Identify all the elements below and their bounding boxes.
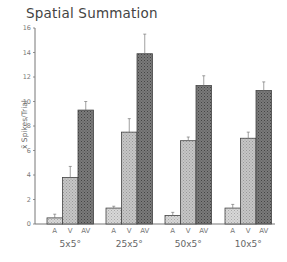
y-tick-label: 0 — [27, 220, 31, 228]
bar-label: AV — [140, 227, 149, 235]
y-tick-label: 4 — [27, 171, 31, 179]
group-label: 10x5° — [235, 239, 262, 249]
group-label: 50x5° — [175, 239, 202, 249]
y-tick-label: 14 — [23, 49, 31, 57]
bar-label: AV — [199, 227, 208, 235]
bar-av — [256, 90, 272, 224]
bar-label: AV — [81, 227, 90, 235]
group-label: 25x5° — [116, 239, 143, 249]
bar-v — [241, 138, 257, 224]
bar-av — [137, 54, 153, 224]
bar-label: A — [111, 227, 116, 235]
bar-a — [225, 208, 241, 224]
bar-av — [78, 110, 94, 224]
bar-label: A — [230, 227, 235, 235]
bar-v — [63, 177, 79, 224]
bar-av — [196, 86, 212, 224]
y-tick-label: 6 — [27, 147, 31, 155]
y-tick-label: 10 — [23, 98, 31, 106]
bar-v — [122, 132, 138, 224]
bar-chart: 0246810121416 AVAV5x5°AVAV25x5°AVAV50x5°… — [0, 0, 287, 262]
bar-a — [106, 208, 122, 224]
bar-label: V — [68, 227, 73, 235]
bars — [47, 34, 272, 224]
y-tick-label: 8 — [27, 122, 31, 130]
y-tick-label: 12 — [23, 73, 31, 81]
bar-a — [165, 215, 181, 224]
y-tick-label: 2 — [27, 196, 31, 204]
group-label: 5x5° — [60, 239, 81, 249]
category-labels: AVAV5x5°AVAV25x5°AVAV50x5°AVAV10x5° — [52, 227, 268, 249]
bar-label: AV — [259, 227, 268, 235]
y-tick-label: 16 — [23, 24, 31, 32]
bar-label: V — [186, 227, 191, 235]
bar-label: A — [170, 227, 175, 235]
bar-v — [181, 141, 197, 224]
bar-a — [47, 218, 63, 224]
bar-label: V — [127, 227, 132, 235]
bar-label: A — [52, 227, 57, 235]
bar-label: V — [246, 227, 251, 235]
